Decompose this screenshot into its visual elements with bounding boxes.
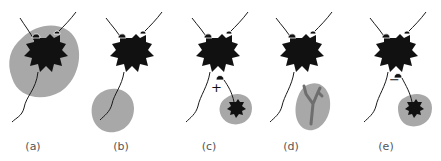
synapse-terminal <box>204 34 212 38</box>
neuron-cell-body <box>280 34 324 72</box>
synapse-terminal <box>382 34 390 38</box>
synapse-terminal <box>32 34 40 38</box>
synapse-terminal <box>288 34 296 38</box>
synapse-terminal <box>404 31 410 34</box>
inhibitory-sign: − <box>389 72 400 87</box>
panel-e <box>364 12 432 126</box>
panel-label-e: (e) <box>378 140 393 153</box>
axon-line <box>230 12 248 32</box>
panel-c <box>186 12 252 124</box>
axon-line <box>58 12 76 32</box>
synapse-terminal <box>226 31 232 34</box>
neuron-cell-body <box>110 34 154 72</box>
excitatory-sign: + <box>211 80 222 95</box>
dendrite-line <box>186 72 210 122</box>
neuron-cell-body <box>374 34 418 72</box>
dendrite-line <box>270 72 294 122</box>
axon-line <box>144 12 162 32</box>
panel-a <box>9 12 79 122</box>
neuron-cell-body <box>196 34 240 72</box>
panel-d <box>270 12 332 130</box>
synapse-terminal <box>140 31 146 34</box>
gray-glial-sheath <box>92 89 134 132</box>
panel-label-c: (c) <box>202 140 217 153</box>
panel-label-a: (a) <box>25 140 40 153</box>
dendrite-line <box>364 72 388 122</box>
synapse-terminal <box>54 31 60 34</box>
axon-line <box>314 12 332 32</box>
panel-b <box>92 12 162 132</box>
synapse-terminal <box>118 34 126 38</box>
axon-line <box>408 12 426 32</box>
panel-label-b: (b) <box>113 140 129 153</box>
synapse-terminal <box>310 31 316 34</box>
panel-label-d: (d) <box>283 140 299 153</box>
